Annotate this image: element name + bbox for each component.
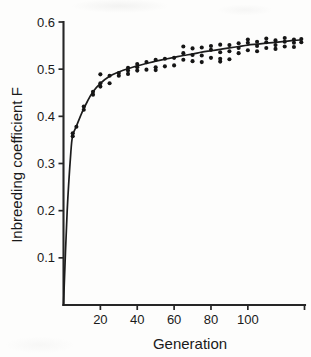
data-point bbox=[218, 60, 222, 64]
data-point bbox=[283, 40, 287, 44]
data-point bbox=[172, 63, 176, 67]
data-point bbox=[163, 64, 167, 68]
data-point bbox=[246, 41, 250, 45]
inbreeding-coefficient-chart: 0.10.20.30.40.50.6 20406080100 Generatio… bbox=[0, 0, 311, 357]
data-point bbox=[71, 131, 75, 135]
data-point bbox=[227, 43, 231, 47]
data-point bbox=[283, 44, 287, 48]
y-tick-label: 0.1 bbox=[37, 250, 55, 265]
data-point bbox=[172, 56, 176, 60]
data-point bbox=[74, 125, 78, 129]
data-point bbox=[200, 45, 204, 49]
data-point bbox=[264, 46, 268, 50]
y-tick-label: 0.6 bbox=[37, 15, 55, 30]
data-point bbox=[200, 53, 204, 57]
data-point bbox=[218, 43, 222, 47]
data-point bbox=[299, 40, 303, 44]
data-point bbox=[126, 72, 130, 76]
figure-container: 0.10.20.30.40.50.6 20406080100 Generatio… bbox=[0, 0, 311, 357]
data-point bbox=[283, 36, 287, 40]
data-point bbox=[181, 51, 185, 55]
data-point bbox=[209, 56, 213, 60]
data-point bbox=[163, 57, 167, 61]
data-point bbox=[181, 58, 185, 62]
data-point bbox=[154, 58, 158, 62]
data-point bbox=[181, 44, 185, 48]
data-point bbox=[237, 51, 241, 55]
x-tick-label: 20 bbox=[93, 312, 107, 327]
data-point bbox=[237, 46, 241, 50]
data-point bbox=[209, 48, 213, 52]
data-point bbox=[200, 60, 204, 64]
data-point bbox=[144, 60, 148, 64]
data-point bbox=[255, 49, 259, 53]
data-point bbox=[98, 85, 102, 89]
data-point bbox=[264, 40, 268, 44]
data-point bbox=[117, 74, 121, 78]
data-point bbox=[82, 108, 86, 112]
data-point bbox=[237, 41, 241, 45]
data-point bbox=[246, 48, 250, 52]
data-point bbox=[255, 40, 259, 44]
data-point bbox=[227, 57, 231, 61]
data-point bbox=[91, 93, 95, 97]
y-axis-title: Inbreeding coefficient F bbox=[8, 87, 25, 243]
y-tick-label: 0.2 bbox=[37, 203, 55, 218]
data-point bbox=[292, 45, 296, 49]
data-point bbox=[135, 69, 139, 73]
x-tick-label: 100 bbox=[237, 312, 259, 327]
data-point bbox=[98, 72, 102, 76]
y-tick-label: 0.4 bbox=[37, 109, 55, 124]
data-point bbox=[108, 74, 112, 78]
data-point bbox=[108, 81, 112, 85]
data-point bbox=[292, 41, 296, 45]
data-point bbox=[273, 38, 277, 42]
data-point bbox=[273, 47, 277, 51]
data-point bbox=[144, 68, 148, 72]
data-point bbox=[264, 36, 268, 40]
data-point bbox=[191, 53, 195, 57]
x-tick-label: 80 bbox=[204, 312, 218, 327]
data-point bbox=[255, 44, 259, 48]
data-point bbox=[273, 43, 277, 47]
y-tick-label: 0.5 bbox=[37, 62, 55, 77]
y-tick-label: 0.3 bbox=[37, 156, 55, 171]
data-point bbox=[154, 68, 158, 72]
data-point bbox=[191, 46, 195, 50]
data-point bbox=[209, 44, 213, 48]
x-tick-label: 40 bbox=[130, 312, 144, 327]
chart-background bbox=[0, 0, 311, 357]
x-tick-label: 60 bbox=[167, 312, 181, 327]
data-point bbox=[227, 49, 231, 53]
data-point bbox=[191, 59, 195, 63]
x-axis-title: Generation bbox=[153, 335, 227, 352]
data-point bbox=[218, 50, 222, 54]
